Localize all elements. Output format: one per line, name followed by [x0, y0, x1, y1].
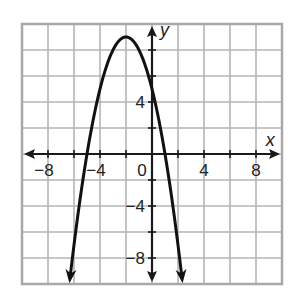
y-tick-label: −8 [126, 249, 145, 268]
coordinate-plane: −8−44804−4−8 x y [0, 0, 293, 291]
x-axis-label: x [265, 130, 276, 150]
x-tick-label: 4 [199, 161, 208, 180]
y-tick-label: −4 [126, 197, 145, 216]
x-tick-label: 8 [251, 161, 260, 180]
x-tick-label: −8 [34, 161, 53, 180]
y-axis-label: y [158, 20, 170, 40]
origin-label: 0 [137, 161, 146, 180]
y-tick-label: 4 [136, 93, 145, 112]
x-tick-label: −4 [86, 161, 105, 180]
axes [24, 26, 280, 282]
